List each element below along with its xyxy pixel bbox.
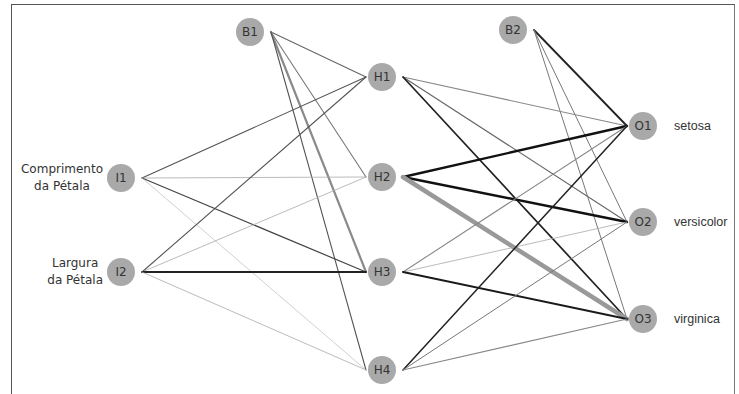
hidden-node-h4: H4 xyxy=(368,356,396,384)
input-label-i2: Largura da Pétala xyxy=(47,255,103,289)
hidden-node-h3: H3 xyxy=(368,258,396,286)
output-node-o1: O1 xyxy=(629,112,657,140)
input-node-i2: I2 xyxy=(107,258,135,286)
edge-h4-o1 xyxy=(403,126,627,370)
input-node-i1: I1 xyxy=(107,164,135,192)
input-label-i1-line1: Comprimento xyxy=(21,161,103,178)
bias-node-b1: B1 xyxy=(236,18,264,46)
bias-node-b2: B2 xyxy=(499,16,527,44)
edge-h1-o1 xyxy=(403,77,627,126)
hidden-node-h2: H2 xyxy=(368,163,396,191)
input-label-i1: Comprimento da Pétala xyxy=(21,161,103,195)
output-label-virginica: virginica xyxy=(674,311,720,328)
hidden-node-h1: H1 xyxy=(368,63,396,91)
output-node-o2: O2 xyxy=(629,208,657,236)
output-node-o3: O3 xyxy=(629,305,657,333)
input-label-i2-line2: da Pétala xyxy=(47,272,103,289)
input-label-i1-line2: da Pétala xyxy=(21,178,103,195)
edge-b2-o1 xyxy=(534,30,627,126)
edge-b1-h4 xyxy=(271,32,366,370)
edge-i1-h1 xyxy=(142,77,366,178)
edge-b2-o2 xyxy=(534,30,627,222)
edge-i2-h1 xyxy=(142,77,366,272)
edge-i1-h2 xyxy=(142,177,366,178)
edge-i1-h4 xyxy=(142,178,366,370)
edge-h4-o3 xyxy=(403,319,627,370)
output-label-versicolor: versicolor xyxy=(674,214,728,231)
edge-b1-h3 xyxy=(271,32,366,272)
input-label-i2-line1: Largura xyxy=(47,255,103,272)
edge-b1-h2 xyxy=(271,32,366,177)
edge-b2-o3 xyxy=(534,30,627,319)
output-label-setosa: setosa xyxy=(674,118,711,135)
edge-i2-h4 xyxy=(142,272,366,370)
